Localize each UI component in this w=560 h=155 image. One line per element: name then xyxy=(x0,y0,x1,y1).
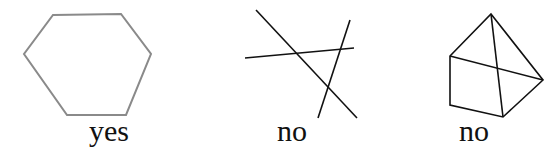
label-no-pyramid: no xyxy=(459,114,489,147)
figure-canvas: yes no no xyxy=(0,0,560,155)
pyramid-shape xyxy=(450,14,543,117)
diagram-svg: yes no no xyxy=(0,0,560,155)
hexagon-shape xyxy=(24,14,151,115)
label-no-lines: no xyxy=(277,114,307,147)
label-yes: yes xyxy=(89,114,129,147)
three-lines-shape xyxy=(245,10,357,118)
